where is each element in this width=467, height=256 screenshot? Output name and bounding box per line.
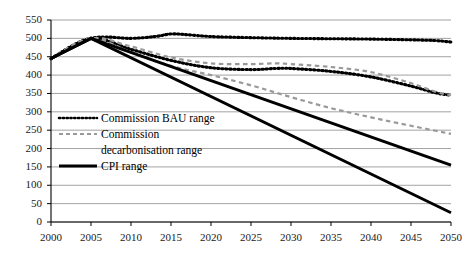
y-tick-label: 500 [6,32,42,43]
x-tick-label: 2010 [109,232,153,243]
y-tick-label: 450 [6,51,42,62]
x-tick-label: 2050 [429,232,467,243]
y-tick-label: 350 [6,87,42,98]
y-tick-label: 100 [6,179,42,190]
legend-item-bau: Commission BAU range [57,110,237,126]
legend-label-decarbonisation-line2: decarbonisation range [101,142,237,158]
y-tick-label: 200 [6,143,42,154]
y-tick-label: 400 [6,69,42,80]
legend-label-decarbonisation: Commission [101,126,159,142]
legend-item-decarbonisation: Commission [57,126,237,142]
y-tick-label: 300 [6,106,42,117]
y-tick-label: 150 [6,161,42,172]
y-tick-label: 250 [6,124,42,135]
y-tick-label: 550 [6,14,42,25]
x-tick-label: 2005 [69,232,113,243]
y-tick-label: 0 [6,216,42,227]
legend-swatch-dotted-icon [57,110,101,126]
x-tick-label: 2035 [309,232,353,243]
legend-swatch-solid-icon [57,158,101,174]
x-tick-label: 2040 [349,232,393,243]
x-tick-label: 2045 [389,232,433,243]
x-tick-label: 2020 [189,232,233,243]
chart-legend: Commission BAU range Commission decarbon… [57,110,237,174]
x-tick-label: 2015 [149,232,193,243]
legend-label-bau: Commission BAU range [101,110,215,126]
x-tick-label: 2030 [269,232,313,243]
x-tick-label: 2025 [229,232,273,243]
x-tick-label: 2000 [29,232,73,243]
legend-item-cpi: CPI range [57,158,237,174]
y-tick-label: 50 [6,198,42,209]
legend-swatch-dashed-icon [57,126,101,142]
legend-label-cpi: CPI range [101,158,147,174]
